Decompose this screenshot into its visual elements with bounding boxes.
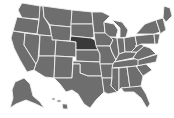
state-hawaii-2[interactable] (57, 100, 61, 102)
state-maine[interactable] (163, 6, 172, 22)
state-alaska[interactable] (10, 78, 44, 108)
state-kansas[interactable] (76, 50, 100, 62)
state-colorado[interactable] (55, 40, 76, 57)
us-map (0, 0, 174, 118)
state-arkansas[interactable] (100, 64, 113, 78)
state-florida[interactable] (121, 86, 150, 108)
state-pennsylvania[interactable] (135, 34, 155, 46)
state-washington[interactable] (18, 3, 40, 19)
state-mid-atlantic[interactable] (154, 34, 160, 44)
state-north-dakota[interactable] (71, 10, 93, 24)
state-hawaii-3[interactable] (62, 104, 68, 109)
state-wyoming[interactable] (50, 25, 71, 41)
state-hawaii-1[interactable] (52, 98, 55, 100)
state-new-mexico[interactable] (54, 56, 73, 78)
